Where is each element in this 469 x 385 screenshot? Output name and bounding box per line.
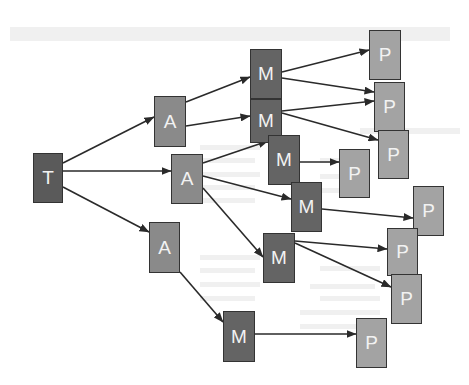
node-label: P xyxy=(348,163,361,185)
node-label: P xyxy=(422,200,435,222)
node-label: P xyxy=(365,332,378,354)
node-label: M xyxy=(299,196,315,218)
node-label: M xyxy=(258,110,274,132)
node-label: P xyxy=(387,144,400,166)
edge-m5-to-p7 xyxy=(295,243,391,287)
edge-m4-to-p5 xyxy=(322,209,413,218)
node-label: M xyxy=(231,326,247,348)
node-p2: P xyxy=(374,82,405,132)
node-a3: A xyxy=(149,222,180,273)
node-m5: M xyxy=(263,233,295,283)
node-label: A xyxy=(158,237,171,259)
node-a1: A xyxy=(154,96,186,147)
edge-a1-to-m1 xyxy=(186,77,250,102)
node-label: A xyxy=(181,168,194,190)
edge-a3-to-m6 xyxy=(180,272,223,322)
node-label: M xyxy=(258,63,274,85)
node-m3: M xyxy=(268,135,300,185)
node-label: P xyxy=(396,241,409,263)
edge-m1-to-p2 xyxy=(282,78,374,92)
edge-a2-to-m5 xyxy=(203,188,263,257)
node-p4: P xyxy=(339,149,370,198)
node-p7: P xyxy=(391,274,422,324)
node-p3: P xyxy=(378,130,409,179)
node-label: P xyxy=(379,44,392,66)
node-a2: A xyxy=(171,154,203,204)
edge-t-to-a1 xyxy=(63,117,154,163)
edge-t-to-a3 xyxy=(63,187,149,232)
node-m4: M xyxy=(291,182,322,232)
node-label: M xyxy=(271,247,287,269)
node-label: P xyxy=(400,288,413,310)
node-m1: M xyxy=(250,49,282,99)
node-p8: P xyxy=(356,318,387,368)
edge-m5-to-p6 xyxy=(295,241,387,249)
edge-m2-to-p2 xyxy=(282,101,374,111)
edge-m1-to-p1 xyxy=(282,50,369,72)
node-p6: P xyxy=(387,228,418,276)
node-label: A xyxy=(164,111,177,133)
node-p1: P xyxy=(369,30,401,80)
node-t: T xyxy=(33,153,63,203)
node-m6: M xyxy=(223,311,255,362)
edge-a1-to-m2 xyxy=(186,116,250,126)
node-label: T xyxy=(42,167,54,189)
edge-a2-to-m3 xyxy=(203,141,268,163)
node-label: M xyxy=(276,149,292,171)
node-label: P xyxy=(383,96,396,118)
